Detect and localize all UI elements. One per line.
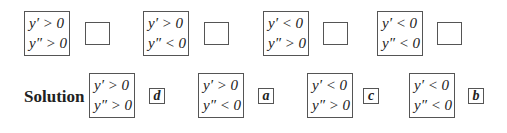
answer-blank[interactable]: [323, 22, 348, 45]
condition-second-derivative: y″ < 0: [148, 33, 188, 53]
condition-second-derivative: y″ > 0: [94, 95, 134, 115]
condition-box: y′ < 0 y″ < 0: [377, 11, 423, 56]
answer-blank[interactable]: [204, 22, 229, 45]
condition-second-derivative: y″ > 0: [29, 33, 69, 53]
answer-box: c: [363, 88, 379, 104]
answer-blank[interactable]: [437, 22, 462, 45]
condition-box: y′ < 0 y″ > 0: [263, 11, 309, 56]
answer-box: b: [468, 88, 484, 104]
condition-box: y′ < 0 y″ < 0: [409, 73, 455, 118]
condition-second-derivative: y″ < 0: [203, 95, 243, 115]
condition-first-derivative: y′ < 0: [268, 13, 308, 33]
condition-second-derivative: y″ > 0: [312, 95, 352, 115]
condition-second-derivative: y″ < 0: [414, 95, 454, 115]
condition-box: y′ > 0 y″ < 0: [198, 73, 244, 118]
condition-first-derivative: y′ < 0: [414, 75, 454, 95]
condition-box: y′ < 0 y″ > 0: [307, 73, 353, 118]
answer-box: a: [258, 88, 274, 104]
answer-box: d: [149, 88, 165, 104]
condition-box: y′ > 0 y″ > 0: [89, 73, 135, 118]
condition-second-derivative: y″ < 0: [382, 33, 422, 53]
condition-first-derivative: y′ > 0: [148, 13, 188, 33]
answer-blank[interactable]: [85, 22, 110, 45]
condition-first-derivative: y′ < 0: [312, 75, 352, 95]
condition-first-derivative: y′ > 0: [29, 13, 69, 33]
condition-box: y′ > 0 y″ < 0: [143, 11, 189, 56]
condition-first-derivative: y′ > 0: [203, 75, 243, 95]
condition-second-derivative: y″ > 0: [268, 33, 308, 53]
condition-first-derivative: y′ > 0: [94, 75, 134, 95]
condition-first-derivative: y′ < 0: [382, 13, 422, 33]
solution-label: Solution: [24, 87, 84, 107]
condition-box: y′ > 0 y″ > 0: [24, 11, 70, 56]
